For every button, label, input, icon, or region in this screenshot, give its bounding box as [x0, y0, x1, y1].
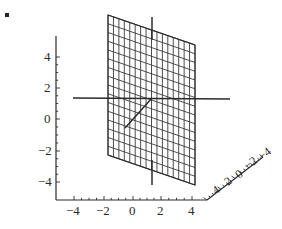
3d-plot-figure: 420−2−4 −4−2024 420−2−4: [0, 0, 282, 229]
horizontal-axis-tick-label: 2: [157, 203, 164, 218]
vertical-axis-tick-label: −4: [38, 174, 52, 189]
scan-speck: [5, 13, 9, 17]
horizontal-axis-tick-label: 4: [188, 203, 195, 218]
horizontal-axis-tick-label: −2: [96, 203, 110, 218]
vertical-axis-tick-label: 0: [44, 111, 51, 126]
plot-canvas: 420−2−4 −4−2024 420−2−4: [0, 0, 282, 229]
vertical-axis-tick-label: 4: [44, 49, 51, 64]
horizontal-axis-tick-label: 0: [129, 203, 136, 218]
vertical-axis-tick-label: −2: [38, 143, 52, 158]
vertical-axis-tick-label: 2: [44, 80, 51, 95]
horizontal-axis-tick-label: −4: [66, 203, 80, 218]
